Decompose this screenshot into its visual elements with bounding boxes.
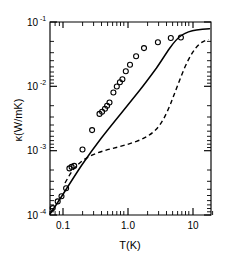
data-point [142, 46, 147, 51]
y-tick-exp-1e-1: -1 [40, 15, 46, 22]
y-minor-ticks-right [207, 41, 211, 211]
x-minor-ticks-top [55, 22, 189, 26]
x-axis-ticks [50, 22, 213, 215]
y-axis-ticks [50, 22, 211, 215]
y-tick-exp-1e-3: -3 [40, 143, 46, 150]
data-point [134, 54, 139, 59]
data-point [111, 90, 116, 95]
data-point [128, 62, 133, 67]
frame-rect [50, 22, 211, 215]
y-tick-label-1e-2: 10 [27, 81, 39, 92]
model-curve-solid [50, 29, 210, 214]
data-point [155, 40, 160, 45]
y-tick-label-1e-1: 10 [27, 17, 39, 28]
y-tick-label-1e-4: 10 [27, 210, 39, 221]
x-minor-ticks-bottom [50, 211, 213, 215]
x-tick-label-1-0: 1.0 [121, 220, 135, 231]
y-tick-exp-1e-4: -4 [40, 208, 46, 215]
plot-frame [50, 22, 211, 215]
y-tick-labels: 10 -1 10 -2 10 -3 10 -4 [27, 15, 46, 221]
x-axis-title: T(K) [119, 239, 140, 251]
y-major-ticks-left [50, 22, 57, 215]
data-point [90, 128, 95, 133]
y-minor-ticks-left [50, 41, 54, 211]
y-tick-exp-1e-2: -2 [40, 79, 46, 86]
x-tick-label-10: 10 [187, 220, 199, 231]
y-axis-title: κ(W/mK) [12, 99, 24, 142]
data-point [123, 69, 128, 74]
x-tick-labels: 0.1 1.0 10 [56, 220, 199, 231]
figure-container: 10 -1 10 -2 10 -3 10 -4 0.1 1.0 10 T(K) … [0, 0, 227, 266]
data-point [80, 147, 85, 152]
data-point [168, 36, 173, 41]
x-tick-label-0-1: 0.1 [56, 220, 70, 231]
y-tick-label-1e-3: 10 [27, 145, 39, 156]
thermal-conductivity-plot: 10 -1 10 -2 10 -3 10 -4 0.1 1.0 10 T(K) … [0, 0, 227, 266]
y-major-ticks-right [204, 22, 211, 215]
model-curve-dashed [65, 40, 209, 183]
